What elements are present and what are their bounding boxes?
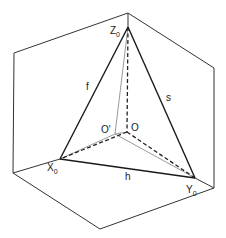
x0-to-oprime	[60, 134, 115, 159]
label-x0: X0	[47, 162, 58, 175]
x-axis-dashed	[60, 132, 127, 159]
axes-dashed	[60, 27, 195, 178]
label-y0: Y0	[186, 184, 197, 197]
label-s: s	[166, 92, 171, 103]
label-z0: Z0	[110, 25, 120, 38]
label-h: h	[125, 171, 131, 182]
label-f: f	[86, 81, 89, 92]
label-o-prime: O'	[101, 124, 111, 135]
z0-to-oprime	[115, 27, 128, 134]
edge-f	[60, 27, 128, 159]
z-axis-dashed	[127, 27, 128, 132]
cube-bottom-face-edge	[13, 173, 214, 229]
cube-frame	[13, 13, 214, 229]
cube-left-face-edge	[13, 13, 128, 173]
label-o: O	[131, 122, 139, 133]
diagram-canvas: Z0 X0 Y0 O O' f s h	[0, 0, 226, 238]
